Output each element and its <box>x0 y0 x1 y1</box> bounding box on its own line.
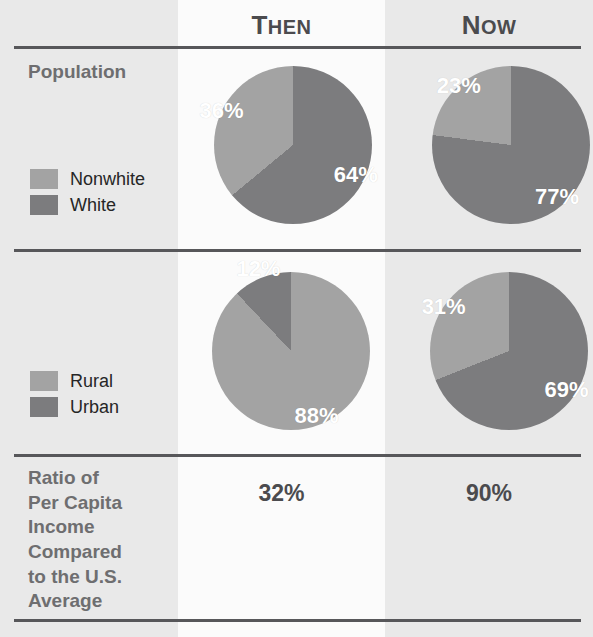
legend-swatch-urban <box>30 397 58 417</box>
row-title-ratio: Ratio ofPer CapitaIncomeComparedto the U… <box>28 466 176 614</box>
row-title-ratio-line: Compared <box>28 541 122 562</box>
row-title-ratio-line: Average <box>28 590 102 611</box>
pie-slice-label: 23% <box>437 75 481 97</box>
column-header-now-rest: OW <box>481 16 516 38</box>
row-title-population: Population <box>28 60 178 84</box>
row-title-ratio-line: Per Capita <box>28 492 122 513</box>
legend-item: Nonwhite <box>30 166 180 192</box>
rule-below-header <box>14 46 581 49</box>
legend-item: Urban <box>30 394 180 420</box>
pie-slice-label: 36% <box>199 100 243 122</box>
pie-slice-label: 77% <box>535 186 579 208</box>
legend-label-nonwhite: Nonwhite <box>70 170 145 188</box>
legend-item: White <box>30 192 180 218</box>
pie-chart-rural-urban-then: 88%12% <box>212 272 370 430</box>
column-header-then-rest: HEN <box>268 16 312 38</box>
rule-table-bottom <box>14 619 581 622</box>
legend-item: Rural <box>30 368 180 394</box>
legend-swatch-nonwhite <box>30 169 58 189</box>
pie-chart-population-then: 64%36% <box>214 66 372 224</box>
row-title-ratio-line: Income <box>28 516 95 537</box>
legend-label-white: White <box>70 196 116 214</box>
legend-population: Nonwhite White <box>30 166 180 218</box>
rule-below-population <box>14 249 581 252</box>
legend-label-urban: Urban <box>70 398 119 416</box>
ratio-value-then: 32% <box>178 478 385 508</box>
column-header-then: THEN <box>178 8 385 42</box>
pie-slice-label: 12% <box>236 258 280 280</box>
row-title-ratio-line: to the U.S. <box>28 566 122 587</box>
column-header-now-initial: N <box>462 10 481 40</box>
column-header-now: NOW <box>385 8 593 42</box>
pie-slice-label: 31% <box>422 296 466 318</box>
pie-chart-population-now: 77%23% <box>432 66 590 224</box>
legend-rural-urban: Rural Urban <box>30 368 180 420</box>
column-header-then-initial: T <box>251 10 267 40</box>
pie-slice-label: 88% <box>295 405 339 427</box>
rule-below-rural-urban <box>14 454 581 457</box>
legend-label-rural: Rural <box>70 372 113 390</box>
pie-chart-rural-urban-now: 69%31% <box>430 272 588 430</box>
pie-slice-label: 69% <box>544 379 588 401</box>
comparison-table: THEN NOW Population Nonwhite White 64%36… <box>0 0 593 637</box>
pie-slice-label: 64% <box>334 164 378 186</box>
row-title-ratio-line: Ratio of <box>28 467 99 488</box>
ratio-value-now: 90% <box>385 478 593 508</box>
legend-swatch-white <box>30 195 58 215</box>
legend-swatch-rural <box>30 371 58 391</box>
